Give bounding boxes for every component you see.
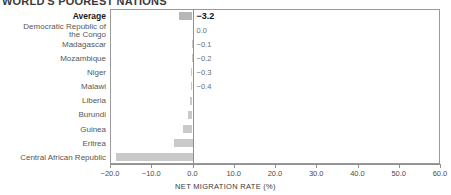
x-tick: [358, 164, 359, 168]
value-label: −0.3: [197, 68, 212, 77]
x-tick: [399, 164, 400, 168]
bar-row: Central African Republic: [0, 150, 451, 164]
bar-row: Average−3.2: [0, 9, 451, 23]
value-label: −0.2: [197, 54, 212, 63]
x-tick-label: 50.0: [391, 169, 406, 178]
bar-row: Guinea: [0, 122, 451, 136]
bar: [183, 125, 192, 133]
chart-figure: WORLD'S POOREST NATIONS Average−3.2Democ…: [0, 0, 451, 195]
category-label: Eritrea: [0, 140, 106, 147]
x-axis-title: NET MIGRATION RATE (%): [0, 182, 451, 191]
x-tick: [234, 164, 235, 168]
x-tick-label: 30.0: [309, 169, 324, 178]
category-label: Liberia: [0, 97, 106, 104]
x-tick: [110, 164, 111, 168]
x-tick-label: 60.0: [433, 169, 448, 178]
category-label: Democratic Republic of the Congo: [0, 23, 106, 38]
bar-row: Eritrea: [0, 136, 451, 150]
bar-row: Malawi−0.4: [0, 79, 451, 93]
value-label: −0.4: [197, 82, 212, 91]
category-label: Guinea: [0, 126, 106, 133]
x-tick: [440, 164, 441, 168]
chart-title: WORLD'S POOREST NATIONS: [2, 0, 167, 7]
bar: [179, 12, 192, 20]
value-label: 0.0: [197, 26, 207, 35]
x-tick-label: −10.0: [142, 169, 161, 178]
zero-reference-line: [193, 9, 194, 164]
category-label: Malawi: [0, 83, 106, 90]
bar-row: Niger−0.3: [0, 65, 451, 79]
x-tick: [275, 164, 276, 168]
bar: [116, 153, 192, 161]
x-tick-label: −20.0: [101, 169, 120, 178]
category-label: Niger: [0, 69, 106, 76]
bar-row: Mozambique−0.2: [0, 51, 451, 65]
category-label: Central African Republic: [0, 154, 106, 161]
category-label: Average: [0, 13, 106, 20]
bar-row: Madagascar−0.1: [0, 37, 451, 51]
category-label: Madagascar: [0, 41, 106, 48]
value-label: −0.1: [197, 40, 212, 49]
x-tick: [193, 164, 194, 168]
category-label: Burundi: [0, 111, 106, 118]
x-tick-label: 20.0: [268, 169, 283, 178]
value-label: −3.2: [197, 11, 215, 21]
x-tick-label: 0.0: [187, 169, 197, 178]
bar: [174, 139, 193, 147]
bar-rows: Average−3.2Democratic Republic of the Co…: [0, 9, 451, 164]
x-tick-label: 40.0: [350, 169, 365, 178]
x-tick: [316, 164, 317, 168]
category-label: Mozambique: [0, 55, 106, 62]
bar-row: Democratic Republic of the Congo0.0: [0, 23, 451, 37]
x-tick-label: 10.0: [226, 169, 241, 178]
bar-row: Burundi: [0, 108, 451, 122]
x-tick: [151, 164, 152, 168]
bar-row: Liberia: [0, 94, 451, 108]
